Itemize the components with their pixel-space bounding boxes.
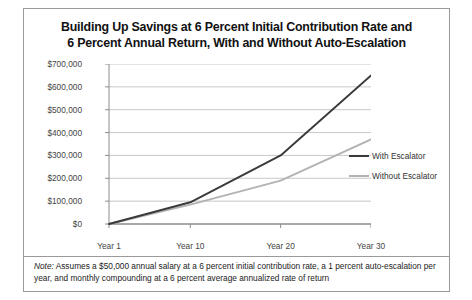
x-axis-ticks [109, 224, 371, 228]
note-text: Assumes a $50,000 annual salary at a 6 p… [34, 261, 436, 283]
note-label: Note: [34, 261, 54, 271]
y-axis-tick-labels: $0$100,000$200,000$300,000$400,000$500,0… [24, 64, 82, 239]
legend-item[interactable]: With Escalator [349, 151, 449, 161]
note-divider [24, 256, 449, 257]
x-axis-tick-label: Year 10 [176, 241, 204, 251]
chart-legend: With EscalatorWithout Escalator [349, 151, 449, 191]
x-axis-tick-labels: Year 1Year 10Year 20Year 30 [86, 241, 371, 255]
y-axis-tick-label: $600,000 [22, 82, 82, 92]
x-axis-tick-label: Year 1 [97, 241, 121, 251]
legend-label: With Escalator [372, 151, 425, 161]
chart-svg [86, 64, 371, 239]
y-axis-tick-label: $100,000 [22, 196, 82, 206]
legend-label: Without Escalator [372, 171, 437, 181]
y-axis-tick-label: $200,000 [22, 173, 82, 183]
chart-note: Note: Assumes a $50,000 annual salary at… [34, 261, 439, 284]
chart-title-line-1: Building Up Savings at 6 Percent Initial… [24, 19, 449, 35]
legend-swatch-icon [349, 175, 369, 177]
chart-title: Building Up Savings at 6 Percent Initial… [24, 19, 449, 51]
series-line [109, 139, 371, 224]
series-line [109, 75, 371, 224]
y-axis-tick-label: $400,000 [22, 128, 82, 138]
y-axis-tick-label: $300,000 [22, 150, 82, 160]
y-axis-tick-label: $700,000 [22, 59, 82, 69]
legend-swatch-icon [349, 155, 369, 157]
y-axis-tick-label: $0 [22, 219, 82, 229]
plot-area [86, 64, 371, 239]
legend-item[interactable]: Without Escalator [349, 171, 449, 181]
figure-container: Building Up Savings at 6 Percent Initial… [23, 8, 450, 292]
gridlines [105, 64, 371, 224]
data-series [109, 75, 371, 224]
x-axis-tick-label: Year 30 [357, 241, 385, 251]
chart-title-line-2: 6 Percent Annual Return, With and Withou… [24, 35, 449, 51]
x-axis-tick-label: Year 20 [266, 241, 294, 251]
y-axis-tick-label: $500,000 [22, 105, 82, 115]
